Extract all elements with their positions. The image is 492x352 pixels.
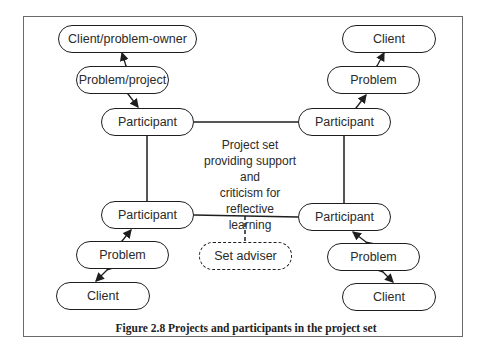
center-line-4: learning bbox=[195, 217, 305, 233]
project-set-description: Project set providing support and critic… bbox=[195, 137, 305, 233]
arrow-tl-client-problem bbox=[122, 53, 126, 66]
arrow-tr-problem-client bbox=[377, 53, 384, 66]
figure-caption: Figure 2.8 Projects and participants in … bbox=[0, 322, 492, 334]
node-problem-top-right: Problem bbox=[327, 66, 420, 94]
arrow-br-problem-participant bbox=[353, 232, 366, 242]
arrow-bl-problem-participant bbox=[122, 230, 131, 241]
node-client-bottom-left: Client bbox=[56, 282, 150, 310]
arrow-tr-participant-problem bbox=[356, 95, 366, 108]
node-client-problem-owner: Client/problem-owner bbox=[58, 25, 197, 53]
node-participant-top-left: Participant bbox=[101, 108, 194, 136]
arrow-br-problem-client bbox=[383, 272, 393, 282]
node-set-adviser: Set adviser bbox=[199, 242, 292, 270]
center-line-3: criticism for reflective bbox=[195, 185, 305, 217]
node-participant-top-right: Participant bbox=[298, 108, 391, 136]
node-participant-bottom-right: Participant bbox=[298, 203, 391, 231]
node-client-top-right: Client bbox=[342, 25, 436, 53]
node-client-bottom-right: Client bbox=[342, 283, 436, 311]
center-line-1: Project set bbox=[195, 137, 305, 153]
arrow-bl-problem-client bbox=[96, 270, 107, 281]
node-problem-bottom-right: Problem bbox=[327, 243, 420, 271]
arrow-tl-problem-participant bbox=[128, 94, 138, 107]
diagram-canvas: Client/problem-owner Problem/project Par… bbox=[0, 0, 492, 352]
node-participant-bottom-left: Participant bbox=[101, 201, 194, 229]
node-problem-bottom-left: Problem bbox=[76, 241, 169, 269]
node-problem-project: Problem/project bbox=[76, 66, 169, 94]
center-line-2: providing support and bbox=[195, 153, 305, 185]
